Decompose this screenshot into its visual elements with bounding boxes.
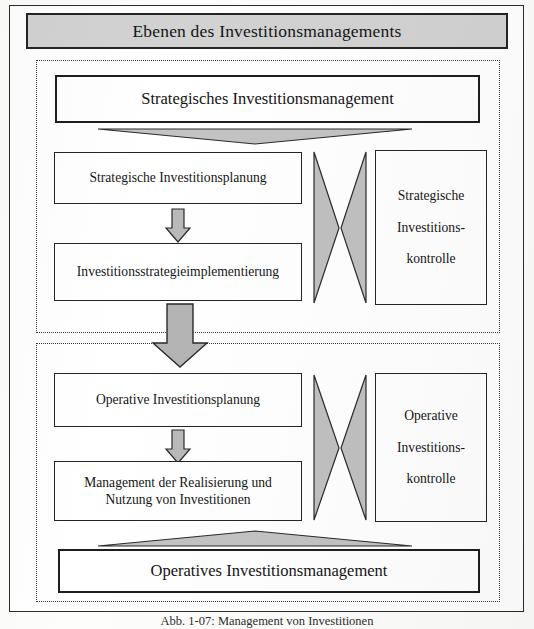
box-strategic-control-line3: kontrolle	[406, 252, 455, 266]
box-operative-control: Operative Investitions- kontrolle	[375, 373, 487, 522]
box-operative-management: Operatives Investitionsmanagement	[58, 549, 480, 593]
box-operative-planning-label: Operative Investitionsplanung	[90, 391, 266, 408]
box-operative-control-line2: Investitions-	[397, 441, 465, 455]
box-strategy-implementation: Investitionsstrategieimplementierung	[54, 243, 302, 301]
figure-page: Ebenen des Investitionsmanagements Strat…	[0, 0, 534, 629]
box-strategic-control-line2: Investitions-	[397, 221, 465, 235]
box-operative-planning: Operative Investitionsplanung	[54, 373, 302, 427]
box-operative-realization-line1: Management der Realisierung und	[84, 475, 272, 490]
bowtie-double-arrow-operative-icon	[310, 373, 370, 522]
figure-caption: Abb. 1-07: Management von Investitionen	[0, 614, 534, 629]
box-strategic-planning-label: Strategische Investitionsplanung	[83, 169, 272, 186]
bowtie-double-arrow-strategic-icon	[310, 150, 370, 305]
box-strategy-implementation-label: Investitionsstrategieimplementierung	[71, 263, 285, 280]
down-arrow-operative-icon	[164, 429, 192, 465]
down-arrow-strategic-to-operative-icon	[150, 303, 210, 369]
box-operative-realization-label: Management der Realisierung und Nutzung …	[78, 474, 278, 509]
box-operative-realization: Management der Realisierung und Nutzung …	[54, 461, 302, 521]
flat-triangle-down-icon	[96, 126, 414, 146]
box-operative-realization-line2: Nutzung von Investitionen	[106, 492, 251, 507]
page-title: Ebenen des Investitionsmanagements	[132, 21, 401, 42]
box-strategic-control: Strategische Investitions- kontrolle	[375, 150, 487, 305]
box-strategic-planning: Strategische Investitionsplanung	[54, 152, 302, 204]
figure-title-banner: Ebenen des Investitionsmanagements	[26, 13, 508, 49]
box-strategic-control-line1: Strategische	[398, 189, 464, 203]
down-arrow-strategic-icon	[164, 208, 192, 244]
flat-triangle-up-icon	[96, 529, 414, 549]
box-operative-control-line1: Operative	[404, 409, 458, 423]
box-strategic-management-label: Strategisches Investitionsmanagement	[141, 89, 393, 109]
box-operative-control-line3: kontrolle	[406, 472, 455, 486]
box-operative-management-label: Operatives Investitionsmanagement	[151, 561, 388, 581]
box-strategic-management: Strategisches Investitionsmanagement	[55, 75, 480, 123]
